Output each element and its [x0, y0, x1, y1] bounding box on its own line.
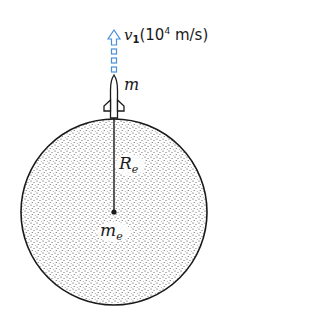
radius-symbol: R — [119, 153, 132, 173]
earth-mass-subscript: e — [116, 230, 123, 243]
velocity-unit-prefix: (10 — [139, 26, 164, 44]
velocity-label: v1(104 m/s) — [124, 26, 208, 44]
radius-label: Re — [119, 153, 138, 173]
velocity-unit-exponent: 4 — [164, 26, 170, 36]
center-point — [111, 209, 116, 214]
velocity-arrow-icon — [108, 30, 120, 72]
radius-subscript: e — [132, 163, 139, 176]
rocket-mass-label: m — [124, 75, 139, 94]
rocket-icon — [104, 75, 124, 118]
velocity-unit-suffix: m/s) — [170, 26, 208, 44]
earth-mass-label: me — [100, 220, 123, 240]
earth-mass-symbol: m — [100, 220, 116, 240]
velocity-subscript: 1 — [132, 34, 139, 45]
